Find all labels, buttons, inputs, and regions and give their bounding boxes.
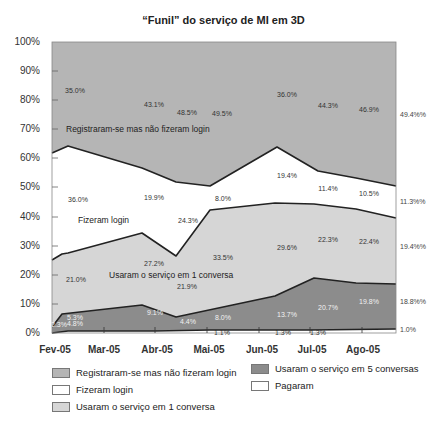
y-tick-label: 90%	[0, 65, 40, 76]
data-label: 24.3%	[178, 217, 198, 224]
x-tick-label: Mai-05	[193, 344, 224, 355]
data-label: 9.1%	[147, 309, 163, 316]
data-label: 1.3%	[275, 329, 291, 336]
x-tick-label: Mar-05	[88, 344, 120, 355]
data-label: 33.5%	[213, 254, 233, 261]
band-label-fizeram-login: Fizeram login	[78, 215, 129, 225]
data-label: 21.9%	[177, 283, 197, 290]
data-label: 44.3%	[318, 102, 338, 109]
x-tick-label: Jul-05	[298, 344, 327, 355]
legend-label: Usaram o serviço em 1 conversa	[76, 401, 215, 412]
right-edge-label: 49.4%%	[400, 111, 426, 118]
data-label: 13.7%	[277, 311, 297, 318]
data-label: 1.1%	[214, 329, 230, 336]
legend-swatch-icon	[52, 368, 70, 378]
right-edge-label: 19.4%%	[400, 243, 426, 250]
legend-swatch-icon	[251, 381, 269, 391]
y-tick-label: 30%	[0, 240, 40, 251]
right-edge-label: 1.0%	[400, 326, 416, 333]
y-tick-label: 60%	[0, 152, 40, 163]
data-label: 2.3%	[51, 321, 67, 328]
data-label: 43.1%	[144, 101, 164, 108]
y-tick-label: 10%	[0, 298, 40, 309]
data-label: 4.8%	[67, 320, 83, 327]
data-label: 11.4%	[318, 185, 337, 192]
y-tick-label: 100%	[0, 36, 40, 47]
legend-swatch-icon	[52, 402, 70, 412]
legend-item: Registraram-se mas não fizeram login	[52, 367, 237, 378]
data-label: 19.4%	[277, 172, 297, 179]
y-tick-label: 20%	[0, 269, 40, 280]
y-tick-label: 70%	[0, 123, 40, 134]
data-label: 20.7%	[318, 304, 338, 311]
legend-label: Fizeram login	[76, 384, 133, 395]
data-label: 19.9%	[144, 194, 164, 201]
x-tick-label: Fev-05	[39, 344, 71, 355]
data-label: 29.6%	[277, 244, 297, 251]
data-label: 19.8%	[359, 298, 379, 305]
legend-swatch-icon	[52, 385, 70, 395]
legend-label: Usaram o serviço em 5 conversas	[275, 363, 419, 374]
data-label: 22.3%	[318, 236, 338, 243]
legend-item: Usaram o serviço em 1 conversa	[52, 401, 215, 412]
data-label: 36.0%	[68, 196, 88, 203]
data-label: 46.9%	[359, 106, 379, 113]
data-label: 49.5%	[212, 110, 232, 117]
y-tick-label: 50%	[0, 181, 40, 192]
legend-label: Pagaram	[275, 380, 314, 391]
data-label: 22.4%	[359, 238, 379, 245]
legend-item: Fizeram login	[52, 384, 133, 395]
y-tick-label: 40%	[0, 211, 40, 222]
band-label-1-conversa: Usaram o serviço em 1 conversa	[109, 270, 233, 280]
y-tick-label: 80%	[0, 94, 40, 105]
x-tick-label: Jun-05	[246, 344, 278, 355]
band-label-registraram: Registraram-se mas não fizeram login	[66, 124, 210, 134]
x-tick-label: Ago-05	[346, 344, 380, 355]
legend-swatch-icon	[251, 364, 269, 374]
data-label: 8.0%	[215, 195, 231, 202]
legend-item: Pagaram	[251, 380, 314, 391]
legend-label: Registraram-se mas não fizeram login	[76, 367, 237, 378]
data-label: 27.2%	[144, 260, 164, 267]
data-label: 8.0%	[215, 314, 231, 321]
data-label: 10.5%	[359, 190, 379, 197]
data-label: 48.5%	[177, 109, 197, 116]
data-label: 4.4%	[180, 318, 196, 325]
y-tick-label: 0%	[0, 327, 40, 338]
right-edge-label: 18.8%%	[400, 298, 426, 305]
data-label: 21.0%	[66, 276, 86, 283]
data-label: 36.0%	[277, 91, 297, 98]
x-tick-label: Abr-05	[141, 344, 173, 355]
data-label: 35.0%	[65, 87, 85, 94]
legend-item: Usaram o serviço em 5 conversas	[251, 363, 419, 374]
data-label: 1.3%	[310, 329, 326, 336]
right-edge-label: 11.3%%	[400, 198, 426, 205]
